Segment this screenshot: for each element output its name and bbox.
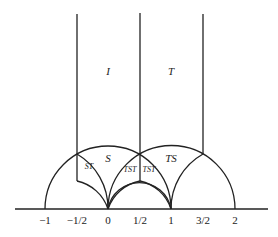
tick-label-1: 1 bbox=[168, 214, 174, 226]
region-label-TS: TS bbox=[165, 152, 177, 164]
arc-center-half bbox=[108, 183, 171, 209]
region-label-S: S bbox=[105, 152, 111, 164]
tick-label-0: 0 bbox=[105, 214, 111, 226]
tick-label-neg-half: −1/2 bbox=[67, 214, 87, 226]
tick-label-half: 1/2 bbox=[133, 214, 147, 226]
tick-label-2: 2 bbox=[232, 214, 238, 226]
region-label-T: T bbox=[168, 65, 175, 77]
tick-label-three-half: 3/2 bbox=[196, 214, 210, 226]
region-label-ST: ST bbox=[85, 162, 94, 171]
region-label-I: I bbox=[105, 65, 111, 77]
region-label-TST-left: TST bbox=[124, 165, 137, 174]
tick-label-neg1: −1 bbox=[39, 214, 51, 226]
fundamental-domain-diagram: I T S TS ST TST TST −1 −1/2 0 1/2 1 3/2 … bbox=[0, 0, 278, 237]
region-label-TST-right: TST bbox=[143, 165, 156, 174]
